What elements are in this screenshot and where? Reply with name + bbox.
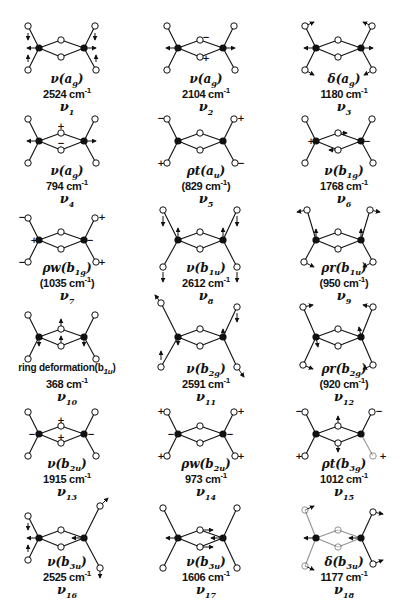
mode-cell-v2: −+ν(ag)2104 cm-1ν2 bbox=[139, 0, 273, 100]
open-atom-icon bbox=[58, 527, 64, 533]
heavy-atom-icon bbox=[357, 430, 364, 437]
mode-cell-v1: ν(ag)2524 cm-1ν1 bbox=[0, 0, 134, 100]
open-atom-icon bbox=[25, 23, 31, 29]
mode-frequency: 1768 cm-1 bbox=[277, 179, 404, 191]
mode-symmetry: ν(b1u) bbox=[139, 262, 273, 276]
svg-text:−: − bbox=[18, 212, 26, 222]
open-atom-icon bbox=[197, 527, 203, 533]
mode-symmetry: ring deformation(b1u) bbox=[0, 363, 134, 377]
svg-text:+: + bbox=[57, 121, 65, 131]
open-atom-icon bbox=[25, 116, 31, 122]
open-atom-icon bbox=[58, 246, 64, 252]
mode-frequency: 973 cm-1 bbox=[139, 472, 273, 484]
mode-cell-v3: δ(ag)1180 cm-1ν3 bbox=[277, 0, 404, 100]
mode-symmetry: ν(ag) bbox=[0, 165, 134, 179]
open-atom-icon bbox=[370, 509, 376, 515]
mode-symmetry: ρr(b2g) bbox=[277, 363, 404, 377]
mode-frequency: 1177 cm-1 bbox=[277, 570, 404, 582]
open-atom-icon bbox=[335, 423, 341, 429]
svg-text:+: + bbox=[98, 212, 106, 222]
open-atom-icon bbox=[58, 544, 64, 550]
heavy-atom-icon bbox=[219, 534, 226, 541]
open-atom-icon bbox=[335, 440, 341, 446]
mode-frequency: 794 cm-1 bbox=[0, 179, 134, 191]
open-atom-icon bbox=[197, 440, 203, 446]
heavy-atom-icon bbox=[219, 44, 226, 51]
mode-cell-v12: ρr(b2g)(920 cm-1)ν12 bbox=[277, 289, 404, 389]
heavy-atom-icon bbox=[312, 430, 319, 437]
open-atom-icon bbox=[197, 544, 203, 550]
mode-cell-v15: −−++ρt(b3g)1012 cm-1ν15 bbox=[277, 386, 404, 486]
heavy-atom-icon bbox=[219, 333, 226, 340]
mode-cell-v18: δ(b3u)1177 cm-1ν18 bbox=[277, 490, 404, 590]
open-atom-icon bbox=[160, 505, 166, 511]
open-atom-icon bbox=[92, 116, 98, 122]
open-atom-icon bbox=[335, 343, 341, 349]
heavy-atom-icon bbox=[357, 534, 364, 541]
mode-symmetry: δ(b3u) bbox=[277, 556, 404, 570]
open-atom-icon bbox=[25, 513, 31, 519]
open-atom-icon bbox=[335, 527, 341, 533]
svg-text:−: − bbox=[363, 136, 371, 146]
mode-frequency: (950 cm-1) bbox=[277, 276, 404, 288]
svg-text:−: − bbox=[295, 406, 303, 416]
mode-frequency: 1012 cm-1 bbox=[277, 472, 404, 484]
open-atom-icon bbox=[335, 326, 341, 332]
svg-text:−: − bbox=[167, 429, 175, 439]
mode-cell-v14: ++++−−ρw(b2u)973 cm-1ν14 bbox=[139, 386, 273, 486]
open-atom-icon bbox=[335, 229, 341, 235]
svg-text:−: − bbox=[28, 429, 36, 439]
open-atom-icon bbox=[234, 207, 240, 213]
open-atom-icon bbox=[335, 147, 341, 153]
mode-symmetry: ρw(b2u) bbox=[139, 458, 273, 472]
svg-text:−: − bbox=[375, 406, 383, 416]
open-atom-icon bbox=[197, 147, 203, 153]
open-atom-icon bbox=[25, 312, 31, 318]
open-atom-icon bbox=[234, 304, 240, 310]
mode-cell-v13: ++−−ν(b2u)1915 cm-1ν13 bbox=[0, 386, 134, 486]
open-atom-icon bbox=[231, 23, 237, 29]
svg-text:+: + bbox=[57, 415, 65, 425]
heavy-atom-icon bbox=[357, 333, 364, 340]
heavy-atom-icon bbox=[357, 236, 364, 243]
open-atom-icon bbox=[335, 130, 341, 136]
open-atom-icon bbox=[197, 229, 203, 235]
heavy-atom-icon bbox=[174, 44, 181, 51]
open-atom-icon bbox=[302, 507, 308, 513]
mode-frequency: 2525 cm-1 bbox=[0, 570, 134, 582]
open-atom-icon bbox=[158, 300, 164, 306]
open-atom-icon bbox=[25, 409, 31, 415]
mode-symmetry: ρw(b1g) bbox=[0, 262, 134, 276]
open-atom-icon bbox=[197, 326, 203, 332]
heavy-atom-icon bbox=[174, 137, 181, 144]
open-atom-icon bbox=[335, 544, 341, 550]
open-atom-icon bbox=[92, 23, 98, 29]
open-atom-icon bbox=[335, 246, 341, 252]
heavy-atom-icon bbox=[312, 44, 319, 51]
mode-symmetry: ν(b2u) bbox=[0, 458, 134, 472]
open-atom-icon bbox=[164, 23, 170, 29]
mode-frequency: (1035 cm-1) bbox=[0, 276, 134, 288]
mode-frequency: 1606 cm-1 bbox=[139, 570, 273, 582]
open-atom-icon bbox=[197, 246, 203, 252]
open-atom-icon bbox=[58, 54, 64, 60]
mode-cell-v17: ν(b3u)1606 cm-1ν17 bbox=[139, 490, 273, 590]
mode-cell-v6: +−ν(b1g)1768 cm-1ν6 bbox=[277, 93, 404, 193]
mode-cell-v7: −+−++−ρw(b1g)(1035 cm-1)ν7 bbox=[0, 192, 134, 292]
open-atom-icon bbox=[58, 326, 64, 332]
heavy-atom-icon bbox=[80, 137, 87, 144]
open-atom-icon bbox=[58, 37, 64, 43]
heavy-atom-icon bbox=[312, 534, 319, 541]
heavy-atom-icon bbox=[357, 44, 364, 51]
svg-text:+: + bbox=[202, 53, 210, 63]
open-atom-icon bbox=[234, 505, 240, 511]
open-atom-icon bbox=[369, 116, 375, 122]
svg-text:−: − bbox=[157, 113, 165, 123]
mode-cell-v16: ν(b3u)2525 cm-1ν16 bbox=[0, 490, 134, 590]
open-atom-icon bbox=[197, 130, 203, 136]
mode-symmetry: δ(ag) bbox=[277, 73, 404, 87]
heavy-atom-icon bbox=[35, 137, 42, 144]
heavy-atom-icon bbox=[80, 333, 87, 340]
open-atom-icon bbox=[335, 54, 341, 60]
svg-text:+: + bbox=[237, 113, 245, 123]
